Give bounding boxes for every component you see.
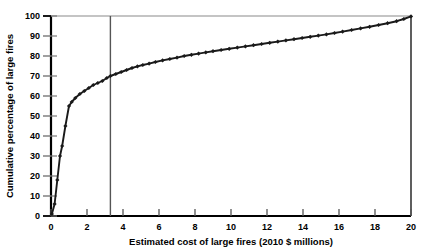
- y-tick-label: 20: [30, 171, 40, 181]
- chart-figure: 0102030405060708090100 02468101214161820…: [0, 0, 428, 252]
- y-tick-label: 0: [35, 211, 40, 221]
- x-axis-title: Estimated cost of large fires (2010 $ mi…: [129, 236, 333, 247]
- y-tick-label: 30: [30, 151, 40, 161]
- x-tick-label: 6: [156, 222, 161, 232]
- y-tick-label: 40: [30, 131, 40, 141]
- x-tick-label: 14: [298, 222, 308, 232]
- x-tick-label: 8: [192, 222, 197, 232]
- x-tick-label: 2: [84, 222, 89, 232]
- y-tick-label: 50: [30, 111, 40, 121]
- y-tick-label: 100: [25, 11, 40, 21]
- chart-canvas: 0102030405060708090100 02468101214161820…: [0, 0, 428, 252]
- x-tick-label: 0: [48, 222, 53, 232]
- y-tick-label: 60: [30, 91, 40, 101]
- x-tick-label: 12: [262, 222, 272, 232]
- x-tick-label: 20: [406, 222, 416, 232]
- y-tick-label: 10: [30, 191, 40, 201]
- y-tick-label: 90: [30, 31, 40, 41]
- x-tick-label: 18: [370, 222, 380, 232]
- x-tick-label: 10: [226, 222, 236, 232]
- plot-background: [51, 16, 411, 216]
- y-axis-title: Cumulative percentage of large fires: [4, 34, 15, 198]
- x-tick-label: 4: [120, 222, 125, 232]
- y-tick-label: 80: [30, 51, 40, 61]
- x-tick-label: 16: [334, 222, 344, 232]
- y-tick-label: 70: [30, 71, 40, 81]
